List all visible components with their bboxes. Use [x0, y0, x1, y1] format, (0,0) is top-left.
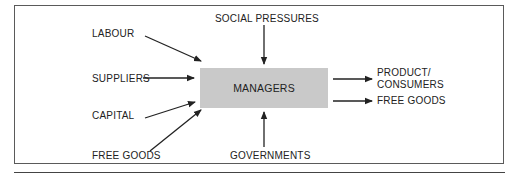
arrow-capital [145, 102, 195, 118]
governments-label: GOVERNMENTS [230, 150, 311, 162]
product-label: PRODUCT/ [377, 67, 431, 79]
capital-label: CAPITAL [92, 110, 134, 122]
suppliers-label: SUPPLIERS [92, 73, 150, 85]
managers-label: MANAGERS [233, 82, 295, 94]
consumers-label: CONSUMERS [377, 79, 444, 91]
managers-box: MANAGERS [200, 68, 328, 108]
labour-label: LABOUR [92, 28, 134, 40]
free-goods-output-label: FREE GOODS [377, 95, 446, 107]
free-goods-input-label: FREE GOODS [92, 150, 161, 162]
arrow-labour [145, 36, 201, 61]
arrow-free-goods-in [150, 110, 201, 151]
social-pressures-label: SOCIAL PRESSURES [215, 13, 319, 25]
